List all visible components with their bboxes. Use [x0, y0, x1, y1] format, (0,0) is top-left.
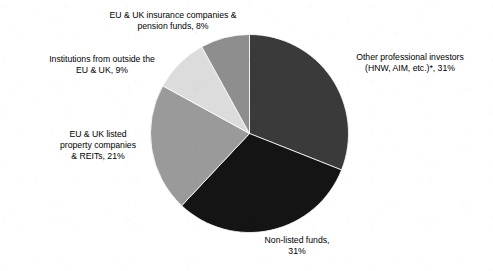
slice-label-line: & REITs, 21% [22, 151, 174, 162]
pie-chart-figure: EU & UK insurance companies & pension fu… [0, 0, 493, 271]
slice-label-institutions-outside-eu-uk: Institutions from outside the EU & UK, 9… [18, 54, 186, 76]
slice-label-line: property companies [22, 140, 174, 151]
slice-label-line: EU & UK, 9% [18, 65, 186, 76]
slice-label-eu-uk-listed-property-companies-reits: EU & UK listed property companies & REIT… [22, 129, 174, 163]
slice-label-eu-uk-insurance-pension-funds: EU & UK insurance companies & pension fu… [78, 10, 268, 32]
slice-label-line: (HNW, AIM, etc.)*, 31% [334, 63, 486, 74]
slice-label-line: 31% [232, 246, 362, 257]
slice-label-line: Other professional investors [334, 52, 486, 63]
slice-label-line: pension funds, 8% [78, 21, 268, 32]
slice-label-other-professional-investors: Other professional investors (HNW, AIM, … [334, 52, 486, 74]
slice-label-line: EU & UK listed [22, 129, 174, 140]
slice-label-line: Non-listed funds, [232, 235, 362, 246]
slice-label-line: Institutions from outside the [18, 54, 186, 65]
slice-label-non-listed-funds: Non-listed funds, 31% [232, 235, 362, 257]
slice-label-line: EU & UK insurance companies & [78, 10, 268, 21]
